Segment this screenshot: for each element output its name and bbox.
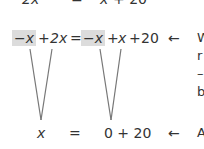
right-v-line xyxy=(111,49,121,120)
right-v-line xyxy=(100,49,111,120)
equals-sign: = xyxy=(69,125,81,141)
left-v-line xyxy=(30,49,41,120)
left-arrow-icon: ← xyxy=(168,125,180,141)
annotation-text: A xyxy=(197,125,204,141)
result-right: 0 + 20 xyxy=(104,125,151,141)
left-v-line xyxy=(41,49,52,120)
result-left: x xyxy=(37,125,45,141)
